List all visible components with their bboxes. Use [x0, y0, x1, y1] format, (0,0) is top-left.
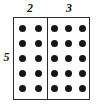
row-count-label: 5 [0, 50, 13, 65]
array-dot [51, 55, 58, 62]
array-row [14, 51, 47, 66]
right-group-section [48, 18, 89, 99]
array-model-diagram: 2 3 5 [0, 0, 97, 106]
array-dot [19, 85, 26, 92]
array-dot [35, 25, 42, 32]
array-row [48, 36, 89, 51]
array-dot [79, 85, 86, 92]
array-dot [35, 40, 42, 47]
array-row [48, 81, 89, 96]
array-dot [51, 85, 58, 92]
array-dot [35, 55, 42, 62]
array-dot [65, 85, 72, 92]
array-dot [65, 40, 72, 47]
array-row [48, 21, 89, 36]
array-dot [19, 25, 26, 32]
array-row [48, 51, 89, 66]
array-dot [65, 55, 72, 62]
array-dot [19, 70, 26, 77]
array-dot [19, 55, 26, 62]
array-dot [51, 70, 58, 77]
array-row [48, 66, 89, 81]
array-dot [79, 55, 86, 62]
left-group-section [14, 18, 48, 99]
array-dot [79, 40, 86, 47]
array-dot [19, 40, 26, 47]
array-row [14, 36, 47, 51]
array-dot [51, 40, 58, 47]
array-box [13, 17, 90, 100]
array-dot [65, 70, 72, 77]
array-dot [65, 25, 72, 32]
right-group-column-label: 3 [48, 1, 90, 16]
array-dot [35, 85, 42, 92]
array-row [14, 66, 47, 81]
array-dot [79, 70, 86, 77]
array-row [14, 21, 47, 36]
array-row [14, 81, 47, 96]
array-dot [51, 25, 58, 32]
array-dot [35, 70, 42, 77]
left-group-column-label: 2 [13, 1, 47, 16]
array-dot [79, 25, 86, 32]
